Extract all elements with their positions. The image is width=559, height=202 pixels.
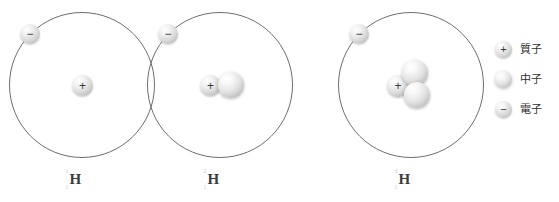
- neutron-icon: [495, 71, 512, 88]
- electron-icon: −: [495, 101, 512, 118]
- atomic-number: 1: [65, 183, 69, 192]
- legend: + 質子 中子 − 電子: [495, 34, 559, 124]
- proton-icon: +: [495, 41, 512, 58]
- neutron-deuterium-1: [218, 72, 244, 98]
- isotope-numbers: 2 1: [203, 166, 207, 192]
- proton-sign: +: [495, 41, 512, 58]
- isotope-label-deuterium: 2 1 H: [203, 164, 219, 194]
- isotope-numbers: 3 1: [394, 166, 398, 192]
- element-symbol: H: [208, 172, 220, 187]
- proton-protium-1: +: [72, 75, 93, 96]
- electron-sign: −: [495, 101, 512, 118]
- electron-tritium-1: −: [349, 24, 369, 44]
- mass-number: 3: [394, 167, 398, 176]
- legend-item-electron: − 電子: [495, 94, 559, 124]
- atomic-number: 1: [203, 183, 207, 192]
- element-symbol: H: [70, 172, 82, 187]
- legend-label-electron: 電子: [520, 104, 542, 115]
- electron-sign: −: [349, 24, 369, 44]
- element-symbol: H: [399, 172, 411, 187]
- proton-sign: +: [72, 75, 93, 96]
- electron-sign: −: [158, 24, 178, 44]
- isotope-diagram-canvas: + − 1 1 H + − 2 1: [0, 0, 559, 202]
- legend-item-neutron: 中子: [495, 64, 559, 94]
- electron-protium-1: −: [20, 24, 40, 44]
- atom-deuterium: + − 2 1 H: [138, 0, 308, 202]
- isotope-numbers: 1 1: [65, 166, 69, 192]
- mass-number: 1: [65, 167, 69, 176]
- neutron-tritium-2: [404, 82, 430, 108]
- atomic-number: 1: [394, 183, 398, 192]
- legend-item-proton: + 質子: [495, 34, 559, 64]
- electron-deuterium-1: −: [158, 24, 178, 44]
- isotope-label-protium: 1 1 H: [65, 164, 81, 194]
- electron-sign: −: [20, 24, 40, 44]
- legend-label-neutron: 中子: [520, 74, 542, 85]
- mass-number: 2: [203, 167, 207, 176]
- atom-tritium: + − 3 1 H: [329, 0, 499, 202]
- legend-label-proton: 質子: [520, 44, 542, 55]
- isotope-label-tritium: 3 1 H: [394, 164, 410, 194]
